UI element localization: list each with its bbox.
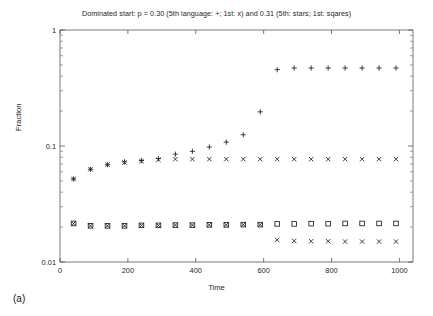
y-axis-ticks: 0.010.11 [42, 26, 413, 267]
x-tick-label: 600 [257, 266, 269, 275]
x-axis-ticks: 02004006008001000 [58, 30, 408, 275]
plot-frame [60, 30, 413, 262]
chart-plot-area: 02004006008001000 0.010.11 [0, 0, 433, 316]
x-tick-label: 800 [325, 266, 337, 275]
y-axis-label: Fraction [14, 104, 23, 131]
x-axis-label: Time [0, 283, 433, 292]
x-tick-label: 200 [122, 266, 134, 275]
series-1 [71, 157, 398, 181]
figure-panel: Dominated start: p = 0.30 (5th language:… [0, 0, 433, 316]
panel-label: (a) [13, 293, 25, 304]
y-tick-label: 1 [52, 26, 56, 35]
x-tick-label: 400 [190, 266, 202, 275]
y-tick-label: 0.01 [42, 258, 56, 267]
series-3 [71, 221, 398, 228]
series-2 [71, 221, 398, 244]
x-tick-label: 1000 [391, 266, 407, 275]
data-series-group [71, 65, 399, 243]
series-0 [71, 65, 399, 181]
x-tick-label: 0 [58, 266, 62, 275]
y-tick-label: 0.1 [46, 142, 56, 151]
